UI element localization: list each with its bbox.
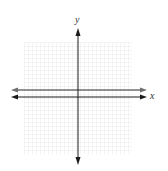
coordinate-plane xyxy=(0,0,168,171)
y-axis-label: y xyxy=(75,14,79,25)
x-axis-label: x xyxy=(150,90,154,101)
